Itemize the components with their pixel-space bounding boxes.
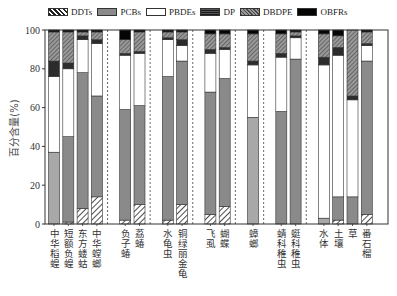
y-tick-label: 60 [30,102,40,113]
segment-PCBs [347,197,358,224]
legend-label: PBDEs [169,7,196,17]
segment-PCBs [318,218,329,224]
segment-OBFRs [248,30,259,34]
y-tick-label: 20 [30,180,40,191]
legend-swatch [297,8,317,16]
legend-swatch [146,8,166,16]
segment-PBDEs [120,55,131,109]
segment-DDTs [177,205,188,224]
stacked-bar-chart: 020406080100 中华稻蝗短额负蝗东方蝼蛄中华螳螂负子蝽荔蝽水龟虫铜绿丽… [0,0,397,296]
segment-DBDPE [77,32,88,36]
segment-DBDPE [162,32,173,38]
bar-水龟虫 [162,30,173,224]
y-tick-label: 0 [35,219,40,230]
x-tick-label: 蜓科稚虫 [290,228,301,269]
legend-label: DBDPE [263,7,293,17]
bar-负子蝽 [120,30,131,224]
x-tick-label: 水龟虫 [162,228,173,259]
segment-PCBs [361,61,372,214]
segment-PCBs [177,61,188,205]
segment-PBDEs [333,55,344,197]
segment-DBDPE [333,36,344,48]
segment-OBFRs [120,30,131,40]
segment-PBDEs [219,49,230,78]
segment-PCBs [120,110,131,221]
segment-DBDPE [120,40,131,54]
segment-PBDEs [63,69,74,137]
y-tick-label: 80 [30,63,40,74]
segment-DBDPE [276,34,287,53]
bar-短额负蝗 [63,30,74,224]
x-tick-label: 中华稻蝗 [49,228,60,269]
legend-swatch [97,8,117,16]
segment-OBFRs [318,30,329,34]
segment-DBDPE [248,34,259,61]
segment-DBDPE [347,30,358,96]
bar-飞虱 [205,30,216,224]
segment-PBDEs [361,46,372,62]
y-axis-title: 百分含量(%) [8,99,20,156]
segment-PCBs [248,117,259,224]
segment-DDTs [91,197,102,224]
bar-东方蝼蛄 [77,30,88,224]
bar-土壤 [333,30,344,224]
segment-PBDEs [49,77,60,153]
segment-DDTs [120,220,131,224]
segment-PCBs [77,73,88,209]
legend-label: DDTs [71,7,92,17]
bar-中华稻蝗 [49,30,60,224]
bar-蟑螂 [248,30,259,224]
segment-DDTs [333,220,344,224]
segment-PBDEs [77,40,88,73]
legend-label: PCBs [120,7,141,17]
legend-item-pcbs: PCBs [97,7,141,17]
segment-PBDEs [134,53,145,105]
segment-DP [91,40,102,44]
legend-item-pbdes: PBDEs [146,7,196,17]
legend-label: DP [223,7,235,17]
segment-PCBs [49,152,60,224]
x-tick-label: 短额负蝗 [63,228,74,269]
segment-PBDEs [318,65,329,218]
bar-蝴蝶 [219,30,230,224]
segment-DBDPE [63,32,74,63]
bar-中华螳螂 [91,30,102,224]
segment-DDTs [361,214,372,224]
segment-DDTs [134,205,145,224]
segment-DP [205,49,216,53]
segment-PCBs [63,137,74,222]
x-tick-label: 荔蝽 [134,228,145,249]
chart-legend: DDTsPCBsPBDEsDPDBDPEOBFRs [48,7,352,17]
bar-番石榴 [361,30,372,224]
segment-OBFRs [205,30,216,34]
x-tick-label: 番石榴 [361,228,372,259]
segment-DBDPE [205,34,216,50]
segment-DP [177,40,188,46]
segment-DP [318,57,329,65]
segment-DDTs [205,214,216,224]
legend-swatch [48,8,68,16]
legend-swatch [200,8,220,16]
x-tick-label: 蜻科稚虫 [276,228,287,269]
x-axis-labels: 中华稻蝗短额负蝗东方蝼蛄中华螳螂负子蝽荔蝽水龟虫铜绿丽金龟飞虱蝴蝶蟑螂蜻科稚虫蜓… [49,228,373,279]
segment-OBFRs [333,30,344,36]
x-tick-label: 水体 [318,228,329,249]
segment-DBDPE [49,32,60,61]
segment-PBDEs [290,38,301,59]
legend-label: OBFRs [320,7,347,17]
segment-DP [276,53,287,57]
segment-PBDEs [248,65,259,117]
segment-DBDPE [290,32,301,36]
segment-PCBs [91,96,102,197]
x-tick-label: 东方蝼蛄 [77,228,88,269]
segment-DDTs [162,220,173,224]
segment-PCBs [134,106,145,205]
legend-swatch [240,8,260,16]
segment-PCBs [290,59,301,224]
segment-DBDPE [219,34,230,48]
legend-item-dbdpe: DBDPE [240,7,293,17]
segment-PBDEs [276,57,287,111]
segment-DBDPE [134,32,145,51]
x-tick-label: 土壤 [333,228,344,249]
segment-OBFRs [276,30,287,34]
